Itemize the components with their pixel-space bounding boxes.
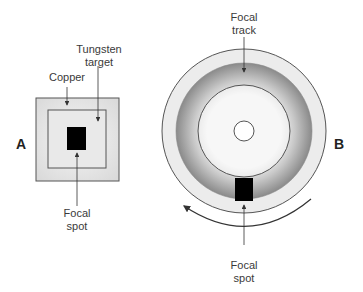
focal-spot-b-line1: Focal	[224, 259, 264, 272]
stationary-anode	[36, 66, 119, 206]
focal-spot-a-label: Focal spot	[57, 207, 97, 233]
focal-track-label: Focal track	[224, 11, 264, 37]
tungsten-target-label: Tungsten target	[74, 43, 124, 69]
focal-spot-a	[67, 127, 86, 150]
focal-spot-a-line1: Focal	[57, 207, 97, 220]
focal-spot-b-label: Focal spot	[224, 259, 264, 285]
focal-spot-b-line2: spot	[224, 272, 264, 285]
copper-label: Copper	[46, 71, 88, 84]
focal-track-line1: Focal	[224, 11, 264, 24]
focal-track-line2: track	[224, 24, 264, 37]
hub	[234, 121, 254, 141]
focal-spot-b	[235, 178, 253, 201]
panel-b-letter: B	[334, 136, 344, 152]
tungsten-label-line2: target	[74, 56, 124, 69]
diagram-canvas	[0, 0, 363, 292]
rotating-anode	[162, 37, 326, 245]
focal-spot-a-line2: spot	[57, 220, 97, 233]
panel-a-letter: A	[16, 136, 26, 152]
tungsten-label-line1: Tungsten	[74, 43, 124, 56]
